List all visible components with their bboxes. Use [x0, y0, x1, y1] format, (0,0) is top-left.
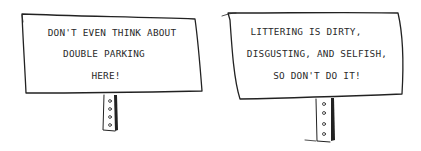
sign-right-line-2: DISGUSTING, AND SELFISH,	[247, 48, 387, 59]
sign-left: DON'T EVEN THINK ABOUT DOUBLE PARKING HE…	[22, 14, 202, 131]
sign-left-line-2: DOUBLE PARKING	[63, 48, 145, 59]
sign-left-line-3: HERE!	[91, 70, 120, 81]
sign-right-line-1: LITTERING IS DIRTY,	[250, 26, 361, 37]
sign-left-post	[103, 95, 118, 131]
sign-left-line-1: DON'T EVEN THINK ABOUT	[48, 27, 177, 38]
sign-right-post	[305, 98, 335, 142]
signs-illustration: DON'T EVEN THINK ABOUT DOUBLE PARKING HE…	[0, 0, 421, 151]
sign-right-line-3: SO DON'T DO IT!	[273, 70, 361, 81]
sign-right: LITTERING IS DIRTY, DISGUSTING, AND SELF…	[222, 13, 403, 142]
